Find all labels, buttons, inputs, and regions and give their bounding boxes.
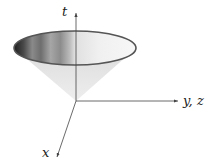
x-axis-label: x [42, 146, 49, 159]
yz-axis-label: y, z [183, 94, 204, 107]
diagram-canvas [0, 0, 211, 167]
t-axis-label: t [62, 5, 67, 18]
light-cone-diagram: t y, z x [0, 0, 211, 167]
x-axis [57, 101, 76, 157]
